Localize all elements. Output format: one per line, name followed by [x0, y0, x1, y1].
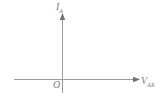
- x-axis-arrowhead: [133, 77, 140, 82]
- x-axis-label-subscript: AK: [147, 81, 155, 88]
- axis-lines: [14, 13, 140, 93]
- x-axis-label: VAK: [141, 76, 155, 88]
- y-axis-label-subscript: A: [59, 7, 63, 14]
- y-axis-label: IA: [56, 2, 63, 14]
- axes-svg: [0, 0, 164, 104]
- axes-diagram: IA VAK O: [0, 0, 164, 104]
- origin-label: O: [53, 80, 60, 90]
